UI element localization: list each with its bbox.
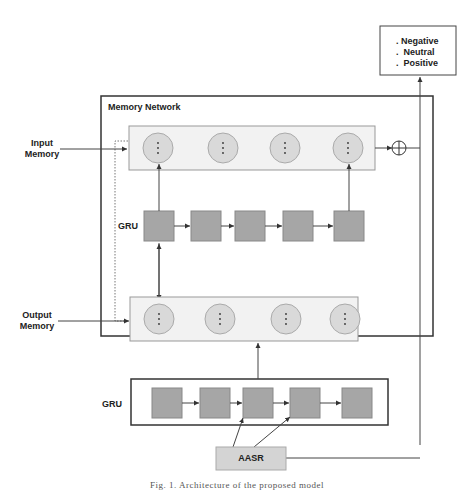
- architecture-diagram: [0, 0, 474, 492]
- label-positive: Positive: [404, 58, 439, 68]
- sentiment-output-list: . Negative . Neutral . Positive: [396, 36, 456, 69]
- outer-gru-label: GRU: [102, 399, 122, 410]
- inner-gru-label: GRU: [118, 221, 138, 232]
- output-positive: . Positive: [396, 58, 456, 69]
- memory-network-title: Memory Network: [108, 102, 181, 113]
- output-negative: . Negative: [396, 36, 456, 47]
- output-memory-label: Output Memory: [16, 310, 58, 332]
- input-memory-label: Input Memory: [22, 138, 62, 160]
- sum-operator-icon: [392, 141, 406, 155]
- bullet: .: [396, 36, 399, 46]
- label-neutral: Neutral: [404, 47, 435, 57]
- aasr-label: AASR: [216, 453, 286, 464]
- bullet: .: [396, 47, 399, 57]
- label-negative: Negative: [401, 36, 439, 46]
- bullet: .: [396, 58, 399, 68]
- figure-caption: Fig. 1. Architecture of the proposed mod…: [0, 480, 474, 490]
- output-neutral: . Neutral: [396, 47, 456, 58]
